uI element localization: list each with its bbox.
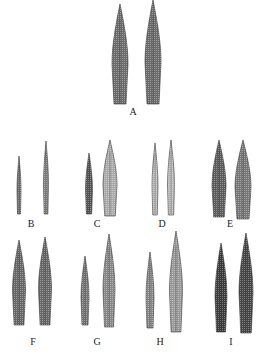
panel-label-g: G [93, 336, 100, 347]
panel-label-c: C [94, 218, 101, 229]
botanical-figure: ABCDEFGHI [0, 0, 268, 362]
panel-c [86, 140, 118, 216]
panel-b [17, 141, 49, 214]
panel-f [13, 237, 52, 325]
panel-g [81, 234, 115, 327]
panel-label-d: D [158, 218, 165, 229]
panel-d [152, 140, 175, 215]
panel-label-h: H [156, 336, 163, 347]
panel-label-f: F [30, 336, 36, 347]
panel-label-a: A [129, 106, 136, 117]
panel-label-b: B [28, 218, 35, 229]
panel-e [212, 140, 251, 219]
panel-h [146, 231, 183, 332]
panel-label-i: I [229, 336, 232, 347]
panel-i [215, 233, 253, 333]
panel-a [112, 0, 161, 104]
panel-label-e: E [227, 218, 233, 229]
leaf-drawings [0, 0, 268, 362]
